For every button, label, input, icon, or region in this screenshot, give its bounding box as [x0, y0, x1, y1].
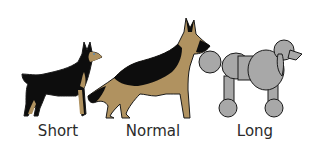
dog-long-coat — [198, 36, 302, 118]
label-normal: Normal — [122, 122, 184, 140]
label-short: Short — [32, 122, 84, 140]
dog-normal-coat — [86, 14, 212, 120]
german-shepherd-icon — [86, 14, 212, 120]
poodle-icon — [198, 36, 302, 118]
label-long: Long — [232, 122, 278, 140]
